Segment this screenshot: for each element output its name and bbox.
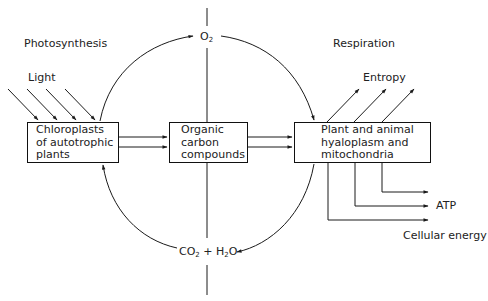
cellular-energy-label: Cellular energy xyxy=(403,230,487,242)
chloroplasts-line1: Chloroplasts xyxy=(36,124,104,137)
photosynthesis-label: Photosynthesis xyxy=(24,38,107,50)
chloroplasts-line3: plants xyxy=(36,149,70,162)
respiration-box: Plant and animal hyaloplasm and mitochon… xyxy=(294,122,431,163)
organic-line3: compounds xyxy=(181,149,245,162)
chloroplasts-box: Chloroplasts of autotrophic plants xyxy=(27,122,119,163)
respiration-box-line3: mitochondria xyxy=(321,149,394,162)
oxygen-label: O2 xyxy=(200,31,213,46)
entropy-label: Entropy xyxy=(363,72,406,84)
respiration-box-line1: Plant and animal xyxy=(321,124,414,137)
respiration-label: Respiration xyxy=(333,38,395,50)
light-label: Light xyxy=(28,72,55,84)
atp-label: ATP xyxy=(436,200,456,212)
organic-line1: Organic xyxy=(181,124,224,137)
organic-carbon-box: Organic carbon compounds xyxy=(169,122,248,163)
co2-h2o-label: CO2 + H2O xyxy=(179,246,237,261)
